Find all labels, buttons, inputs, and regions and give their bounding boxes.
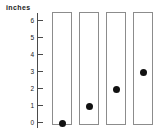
data-point-dot xyxy=(86,103,93,110)
data-point-dot xyxy=(113,86,120,93)
y-axis-tick-label-wrap: 0 xyxy=(0,119,34,126)
y-axis-tick-label-wrap: 4 xyxy=(0,51,34,58)
y-axis-tick-mark xyxy=(38,88,43,89)
y-axis-tick-mark xyxy=(38,71,43,72)
y-axis-tick-label: 6 xyxy=(4,17,34,24)
measurement-column xyxy=(79,12,99,125)
y-axis-tick-label-wrap: 3 xyxy=(0,68,34,75)
measurement-column xyxy=(52,12,72,125)
y-axis-tick-label-wrap: 5 xyxy=(0,34,34,41)
measurement-chart: inches 6543210 xyxy=(0,0,157,135)
y-axis-tick-mark xyxy=(38,37,43,38)
y-axis-tick-mark xyxy=(38,122,43,123)
y-axis-unit-label: inches xyxy=(6,3,31,12)
y-axis-tick-label: 3 xyxy=(4,68,34,75)
y-axis-tick-label: 0 xyxy=(4,119,34,126)
y-axis-tick-label: 5 xyxy=(4,34,34,41)
y-axis-tick-mark xyxy=(38,105,43,106)
measurement-column xyxy=(133,12,153,125)
y-axis-tick-label: 4 xyxy=(4,51,34,58)
y-axis-tick-label: 1 xyxy=(4,102,34,109)
data-point-dot xyxy=(140,69,147,76)
data-point-dot xyxy=(59,120,66,127)
y-axis-tick-label-wrap: 1 xyxy=(0,102,34,109)
y-axis-tick-label: 2 xyxy=(4,85,34,92)
y-axis-tick-mark xyxy=(38,20,43,21)
y-axis-tick-label-wrap: 6 xyxy=(0,17,34,24)
measurement-column xyxy=(106,12,126,125)
y-axis-tick-mark xyxy=(38,54,43,55)
y-axis-tick-label-wrap: 2 xyxy=(0,85,34,92)
